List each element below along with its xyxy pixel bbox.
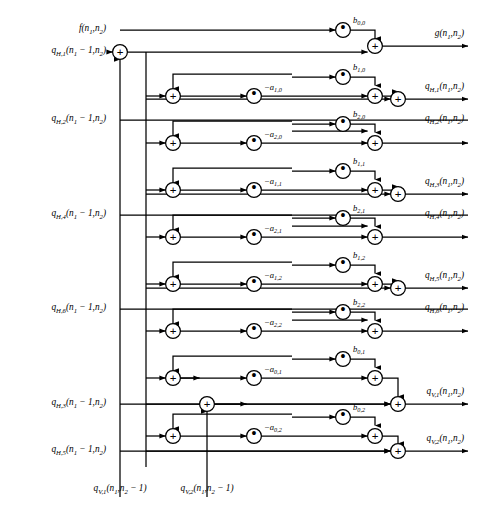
multiplier-b-5: • [336, 207, 351, 225]
adder-stage-2: + [166, 136, 181, 151]
svg-text:•: • [341, 301, 346, 317]
coef-a-0-2: −a0,2 [264, 423, 282, 434]
wire-b-out-6 [350, 265, 375, 274]
diagram-wiring: ++•+•+•+•+•+•+•+••••••••••++++++++++++++… [0, 0, 482, 505]
adder-sum-8: + [368, 371, 383, 386]
adder-out-2: + [391, 187, 406, 202]
qh1-delay-input: qH,1(n1 − 1,n2) [51, 46, 106, 58]
multiplier-a-6: • [247, 320, 262, 338]
signal-flow-diagram: ++•+•+•+•+•+•+•+••••••••••++++++++++++++… [0, 0, 482, 505]
qh2-output: qH,2(n1,n2) [425, 114, 464, 126]
svg-text:•: • [252, 367, 257, 383]
coef-a-1-1: −a1,1 [264, 177, 282, 188]
qh6-delay-input: qH,6(n1 − 1,n2) [51, 303, 106, 315]
svg-text:•: • [252, 425, 257, 441]
svg-text:•: • [252, 132, 257, 148]
coef-a-1-0: −a1,0 [264, 83, 282, 94]
svg-text:+: + [395, 445, 402, 457]
qv1-delay-input: qV,1(n1,n2 − 1) [94, 484, 147, 496]
qh1-output: qH,1(n1,n2) [425, 82, 464, 94]
svg-text:•: • [252, 85, 257, 101]
adder-sum-3: + [368, 136, 383, 151]
svg-text:•: • [341, 160, 346, 176]
svg-text:+: + [372, 372, 379, 384]
adder-sum-2: + [368, 89, 383, 104]
f-input: f(n1,n2) [79, 24, 106, 36]
multiplier-b-9: • [336, 406, 351, 424]
multiplier-a-7: • [247, 367, 262, 385]
qh2-delay-input: qH,2(n1 − 1,n2) [51, 114, 106, 126]
wire-b-out-9 [350, 417, 375, 426]
qv2-delay-input: qV,2(n1,n2 − 1) [181, 484, 234, 496]
svg-text:•: • [252, 226, 257, 242]
multiplier-b-2: • [336, 66, 351, 84]
qv1-output: qV,1(n1,n2) [427, 387, 464, 399]
svg-text:+: + [170, 430, 177, 442]
wire-b-out-5 [350, 218, 375, 227]
wire-b-out-8 [350, 359, 375, 368]
svg-text:+: + [395, 282, 402, 294]
qh4-output: qH,4(n1,n2) [425, 209, 464, 221]
coef-a-2-1: −a2,1 [264, 224, 282, 235]
multiplier-a-4: • [247, 226, 262, 244]
wire-b-out-7 [350, 312, 375, 321]
multiplier-b-1: • [336, 19, 351, 37]
adder-stage-1: + [166, 89, 181, 104]
svg-text:•: • [252, 320, 257, 336]
svg-text:+: + [372, 137, 379, 149]
coef-b-2-1: b2,1 [353, 204, 365, 215]
qh6-output: qH,6(n1,n2) [425, 303, 464, 315]
svg-text:•: • [341, 406, 346, 422]
qh5-output: qH,5(n1,n2) [425, 271, 464, 283]
qh4-delay-input: qH,4(n1 − 1,n2) [51, 209, 106, 221]
svg-text:+: + [372, 231, 379, 243]
wire-sum-to-out-5 [382, 436, 398, 444]
svg-text:•: • [252, 273, 257, 289]
svg-text:+: + [170, 137, 177, 149]
adder-out-4: + [391, 397, 406, 412]
qh3-delay-input: qH,3(n1 − 1,n2) [51, 398, 106, 410]
adder-stage-7: + [166, 371, 181, 386]
adder-stage-3: + [166, 183, 181, 198]
adder-qv2-sum: + [200, 397, 215, 412]
adder-sum-5: + [368, 230, 383, 245]
svg-text:•: • [341, 207, 346, 223]
multiplier-b-8: • [336, 348, 351, 366]
wire-b-out-1 [350, 30, 375, 39]
adder-sum-1: + [368, 39, 383, 54]
svg-text:+: + [117, 46, 124, 58]
coef-a-1-2: −a1,2 [264, 271, 282, 282]
adder-stage-6: + [166, 324, 181, 339]
multiplier-a-3: • [247, 179, 262, 197]
coef-a-2-2: −a2,2 [264, 318, 282, 329]
svg-text:+: + [372, 90, 379, 102]
multiplier-b-4: • [336, 160, 351, 178]
svg-text:+: + [395, 398, 402, 410]
coef-b-2-0: b2,0 [353, 110, 365, 121]
multiplier-b-3: • [336, 113, 351, 131]
adder-sum-7: + [368, 324, 383, 339]
multiplier-a-5: • [247, 273, 262, 291]
coef-b-1-2: b1,2 [353, 251, 365, 262]
svg-text:+: + [170, 372, 177, 384]
coef-a-0-1: −a0,1 [264, 365, 282, 376]
adder-out-5: + [391, 444, 406, 459]
svg-text:+: + [372, 325, 379, 337]
coef-b-2-2: b2,2 [353, 298, 365, 309]
svg-text:•: • [341, 66, 346, 82]
adder-sum-6: + [368, 277, 383, 292]
wire-sum-to-out-4 [382, 378, 398, 397]
multiplier-a-2: • [247, 132, 262, 150]
adder-stage-4: + [166, 230, 181, 245]
svg-text:•: • [341, 113, 346, 129]
svg-text:•: • [252, 179, 257, 195]
g-output: g(n1,n2) [435, 29, 464, 41]
svg-text:•: • [341, 19, 346, 35]
adder-stage-5: + [166, 277, 181, 292]
adder-sum-9: + [368, 429, 383, 444]
svg-text:+: + [372, 184, 379, 196]
svg-text:+: + [372, 278, 379, 290]
qh3-output: qH,3(n1,n2) [425, 177, 464, 189]
adder-out-1: + [391, 92, 406, 107]
svg-text:•: • [341, 348, 346, 364]
